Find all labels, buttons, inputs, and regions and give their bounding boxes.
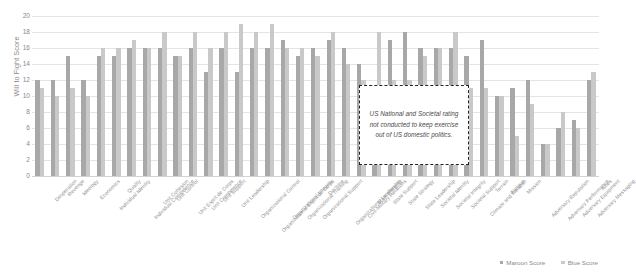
- bar-group: [155, 16, 170, 176]
- bar-group: [32, 16, 47, 176]
- bar-group: [538, 16, 553, 176]
- y-axis-tick-label: 20: [14, 13, 30, 19]
- bar-group: [492, 16, 507, 176]
- bar-group: [139, 16, 154, 176]
- y-axis-tick-label: 0: [14, 173, 30, 179]
- bar-group: [201, 16, 216, 176]
- bar-group: [47, 16, 62, 176]
- legend-swatch-icon: [561, 261, 565, 265]
- bar: [224, 32, 228, 176]
- legend-swatch-icon: [500, 261, 504, 265]
- x-axis-label: Fatigue: [510, 178, 527, 195]
- bar: [346, 64, 350, 176]
- bar-group: [262, 16, 277, 176]
- bar-group: [185, 16, 200, 176]
- bar: [576, 128, 580, 176]
- bar: [162, 32, 166, 176]
- bar-group: [216, 16, 231, 176]
- bar: [285, 48, 289, 176]
- bar: [40, 88, 44, 176]
- bar: [254, 32, 258, 176]
- bar-group: [338, 16, 353, 176]
- y-axis-tick-label: 16: [14, 45, 30, 51]
- bar: [55, 96, 59, 176]
- bar-group: [308, 16, 323, 176]
- bar-group: [522, 16, 537, 176]
- bar: [469, 88, 473, 176]
- bar: [270, 24, 274, 176]
- bar: [132, 40, 136, 176]
- chart-legend: Maroon Score Blue Score: [0, 259, 610, 266]
- bar: [178, 56, 182, 176]
- bar-group: [293, 16, 308, 176]
- bar-group: [124, 16, 139, 176]
- bar-group: [568, 16, 583, 176]
- bar-group: [78, 16, 93, 176]
- bar-group: [63, 16, 78, 176]
- y-axis-tick-label: 18: [14, 29, 30, 35]
- bar: [101, 48, 105, 176]
- y-axis-tick-label: 10: [14, 93, 30, 99]
- bar: [561, 112, 565, 176]
- bar: [315, 56, 319, 176]
- y-axis-tick-label: 6: [14, 125, 30, 131]
- bar-group: [476, 16, 491, 176]
- bar-group: [247, 16, 262, 176]
- y-axis-tick-label: 2: [14, 157, 30, 163]
- legend-label: Maroon Score: [506, 259, 545, 266]
- bar: [499, 96, 503, 176]
- bar-group: [584, 16, 599, 176]
- x-axis-label: Economics: [98, 178, 121, 201]
- bar-group: [507, 16, 522, 176]
- bar: [484, 88, 488, 176]
- gridline: [32, 176, 599, 177]
- bar: [208, 48, 212, 176]
- bar: [515, 136, 519, 176]
- bar: [300, 48, 304, 176]
- bar-group: [93, 16, 108, 176]
- y-axis-tick-label: 14: [14, 61, 30, 67]
- bar: [530, 104, 534, 176]
- bar-group: [231, 16, 246, 176]
- bar: [193, 32, 197, 176]
- legend-item-blue-score[interactable]: Blue Score: [561, 259, 598, 266]
- bar: [331, 32, 335, 176]
- bar: [116, 48, 120, 176]
- bar: [545, 144, 549, 176]
- bar: [591, 72, 595, 176]
- legend-item-maroon-score[interactable]: Maroon Score: [500, 259, 545, 266]
- annotation-text: US National and Societal rating not cond…: [365, 109, 463, 141]
- bar-group: [277, 16, 292, 176]
- bar: [239, 24, 243, 176]
- bar: [86, 96, 90, 176]
- plot-area: [32, 16, 599, 176]
- y-axis-tick-label: 12: [14, 77, 30, 83]
- bar: [70, 88, 74, 176]
- bar-group: [323, 16, 338, 176]
- bar-group: [170, 16, 185, 176]
- bar: [147, 48, 151, 176]
- legend-label: Blue Score: [568, 259, 598, 266]
- y-axis-tick-label: 8: [14, 109, 30, 115]
- bar-group: [553, 16, 568, 176]
- y-axis-tick-label: 4: [14, 141, 30, 147]
- bar-group: [109, 16, 124, 176]
- annotation-box: US National and Societal rating not cond…: [359, 85, 469, 165]
